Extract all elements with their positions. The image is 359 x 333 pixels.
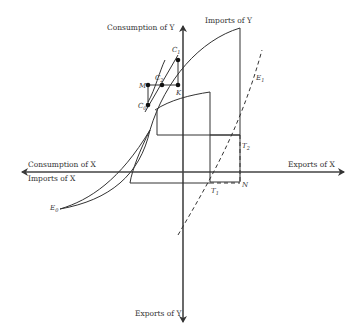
- point-k: [176, 83, 181, 88]
- label-k: K: [175, 89, 182, 97]
- label-c1: C1: [172, 46, 181, 55]
- point-m: [146, 83, 151, 88]
- outer-box-left: [130, 130, 210, 183]
- point-c2: [160, 83, 165, 88]
- label-imports-y: Imports of Y: [205, 16, 253, 25]
- label-e1: E1: [255, 74, 264, 83]
- label-t2: T2: [242, 142, 250, 151]
- outer-box-curve: [60, 28, 240, 209]
- label-consumption-x: Consumption of X: [28, 160, 96, 169]
- label-c2: C2: [155, 74, 164, 83]
- label-c0: C0: [138, 102, 147, 111]
- label-consumption-y: Consumption of Y: [107, 23, 175, 32]
- curve-e0: [60, 130, 150, 209]
- label-e0: E0: [49, 204, 59, 213]
- curve-e1: [178, 50, 262, 235]
- label-n: N: [241, 181, 249, 189]
- label-exports-y: Exports of Y: [135, 309, 183, 318]
- label-imports-x: Imports of X: [28, 174, 76, 183]
- inner-box-left: [157, 110, 240, 135]
- label-m: M: [138, 82, 147, 90]
- label-exports-x: Exports of X: [288, 160, 336, 169]
- label-t1: T1: [211, 187, 219, 196]
- point-c1: [176, 58, 181, 63]
- trade-diagram: Consumption of Y Imports of Y Exports of…: [0, 0, 359, 333]
